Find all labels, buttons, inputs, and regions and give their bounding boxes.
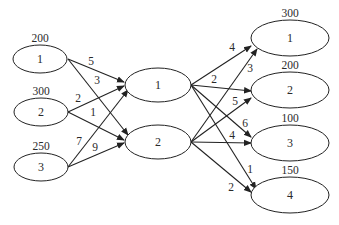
node-D4: 4150 <box>251 164 329 213</box>
network-svg: 53217942613542 1200230032501213002200310… <box>0 0 339 225</box>
demand-label: 150 <box>281 164 299 176</box>
edge-cost-label: 9 <box>92 141 98 153</box>
node-D1: 1300 <box>251 7 329 56</box>
node-T2: 2 <box>125 125 191 159</box>
node-label: 1 <box>37 52 43 66</box>
node-S3: 3250 <box>14 140 68 181</box>
node-D2: 2200 <box>251 59 329 108</box>
demand-label: 100 <box>281 112 299 124</box>
edge-T1-D4: 1 <box>191 85 256 189</box>
node-label: 2 <box>287 83 293 97</box>
node-label: 3 <box>38 160 44 174</box>
edge-cost-label: 5 <box>232 95 238 107</box>
edge-cost-label: 1 <box>90 106 96 118</box>
node-label: 3 <box>287 136 293 150</box>
network-diagram: 53217942613542 1200230032501213002200310… <box>0 0 339 225</box>
edge-cost-label: 4 <box>229 129 235 141</box>
edge-arrow <box>191 85 251 91</box>
supply-label: 300 <box>32 85 50 97</box>
node-S2: 2300 <box>14 85 68 126</box>
node-T1: 1 <box>125 68 191 102</box>
node-label: 1 <box>287 31 293 45</box>
node-label: 2 <box>155 135 161 149</box>
node-D3: 3100 <box>251 112 329 161</box>
edges-layer: 53217942613542 <box>68 41 257 193</box>
edge-cost-label: 2 <box>75 92 81 104</box>
node-label: 4 <box>287 188 293 202</box>
node-S1: 1200 <box>13 32 67 73</box>
edge-cost-label: 5 <box>88 55 94 67</box>
nodes-layer: 120023003250121300220031004150 <box>13 7 329 213</box>
demand-label: 200 <box>281 59 299 71</box>
edge-cost-label: 3 <box>94 74 100 86</box>
edge-cost-label: 2 <box>228 181 234 193</box>
edge-cost-label: 3 <box>247 62 253 74</box>
edge-cost-label: 6 <box>242 117 248 129</box>
edge-arrow <box>191 142 251 143</box>
edge-cost-label: 4 <box>229 41 235 53</box>
edge-S2-T1: 2 <box>68 86 124 112</box>
supply-label: 200 <box>31 32 49 44</box>
demand-label: 300 <box>281 7 299 19</box>
supply-label: 250 <box>32 140 50 152</box>
edge-T1-D2: 2 <box>191 73 251 91</box>
edge-cost-label: 2 <box>211 73 217 85</box>
edge-T1-D1: 4 <box>191 41 251 85</box>
node-label: 2 <box>38 105 44 119</box>
edge-cost-label: 1 <box>247 163 253 175</box>
node-label: 1 <box>155 78 161 92</box>
edge-arrow <box>191 46 251 85</box>
edge-cost-label: 7 <box>76 135 82 147</box>
